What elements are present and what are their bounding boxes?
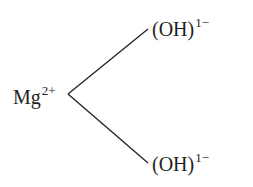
- center-ion-symbol: Mg: [13, 86, 41, 108]
- ligand-bottom-formula: (OH): [152, 153, 194, 175]
- bond-line-top: [68, 29, 148, 94]
- ligand-bottom: (OH)1−: [152, 154, 209, 174]
- ligand-top-formula: (OH): [152, 18, 194, 40]
- bond-line-bottom: [68, 94, 148, 163]
- center-ion: Mg2+: [13, 87, 56, 107]
- ligand-bottom-charge: 1−: [195, 150, 209, 165]
- center-ion-charge: 2+: [42, 83, 56, 98]
- ligand-top-charge: 1−: [195, 15, 209, 30]
- ligand-top: (OH)1−: [152, 19, 209, 39]
